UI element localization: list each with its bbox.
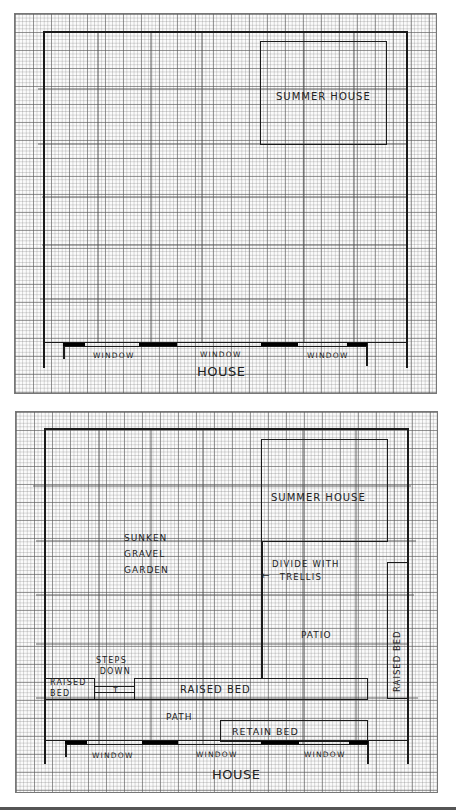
sunken-gravel-garden-label: SUNKEN GRAVEL GARDEN bbox=[124, 530, 169, 578]
guide-line bbox=[36, 643, 408, 645]
raised-bed-right-label: RAISED BED bbox=[392, 630, 402, 692]
steps-down-label: STEPS DOWN bbox=[96, 655, 131, 677]
window-label: WINDOW bbox=[92, 751, 134, 760]
path-label: PATH bbox=[166, 712, 193, 722]
window-label: WINDOW bbox=[196, 750, 238, 759]
window-frame bbox=[63, 343, 85, 346]
patio-label: PATIO bbox=[301, 630, 332, 640]
raised-bed-strip bbox=[134, 678, 368, 700]
guide-line bbox=[201, 31, 203, 343]
house-wall-inner bbox=[63, 346, 367, 347]
house-label: HOUSE bbox=[197, 364, 246, 379]
boundary-left-wall bbox=[44, 428, 46, 764]
window-label: WINDOW bbox=[200, 350, 242, 359]
boundary-top-wall bbox=[44, 428, 408, 430]
raised-bed-left-label: RAISED BED bbox=[50, 677, 87, 699]
raised-bed-strip-label: RAISED BED bbox=[180, 684, 251, 695]
window-frame bbox=[261, 343, 298, 346]
boundary-top-wall bbox=[43, 31, 407, 33]
summer-house-label: SUMMER HOUSE bbox=[276, 91, 371, 102]
divide-with-trellis-label: DIVIDE WITH TRELLIS bbox=[272, 558, 340, 584]
window-frame bbox=[349, 741, 368, 744]
window-frame bbox=[139, 343, 177, 346]
boundary-right-wall bbox=[406, 31, 408, 368]
steps-arrow-icon: ↑ bbox=[111, 684, 120, 695]
retain-bed-label: RETAIN BED bbox=[232, 726, 299, 737]
window-label: WINDOW bbox=[307, 351, 349, 360]
window-frame bbox=[142, 741, 178, 744]
summer-house-proposed bbox=[261, 439, 388, 542]
boundary-left-wall bbox=[43, 31, 45, 368]
house-wall-inner bbox=[65, 744, 368, 745]
house-corner-right bbox=[367, 741, 369, 764]
window-label: WINDOW bbox=[304, 750, 346, 759]
window-frame bbox=[261, 741, 299, 744]
window-label: WINDOW bbox=[93, 351, 135, 360]
house-label: HOUSE bbox=[212, 767, 261, 782]
trellis-arrow-icon: ← bbox=[261, 570, 270, 581]
window-frame bbox=[65, 741, 87, 744]
guide-line bbox=[150, 31, 152, 343]
window-frame bbox=[347, 343, 367, 346]
guide-line bbox=[97, 31, 99, 343]
trellis-divide bbox=[261, 541, 263, 679]
summer-house-label: SUMMER HOUSE bbox=[271, 492, 366, 503]
house-corner-right bbox=[366, 343, 368, 366]
guide-line bbox=[36, 594, 414, 596]
guide-line bbox=[40, 298, 407, 300]
